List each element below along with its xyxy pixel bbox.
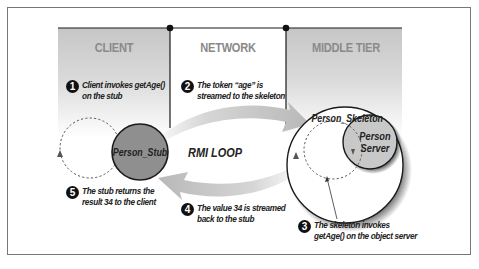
rmi-loop-diagram: CLIENT NETWORK MIDDLE TIER 1 Client invo… xyxy=(0,0,479,269)
step-2-line-2: streamed to the skeleton xyxy=(197,91,285,102)
rmi-loop-label: RMI LOOP xyxy=(186,145,245,160)
step-number-badge: 3 xyxy=(298,220,311,233)
step-4-line-2: back to the stub xyxy=(197,214,285,225)
step-number-badge: 5 xyxy=(66,186,79,199)
person-stub-label: Person_Stub xyxy=(111,146,170,158)
person-server-label: Person Server xyxy=(356,130,395,154)
step-5-line-2: result 34 to the client xyxy=(82,197,156,208)
server-label-line-2: Server xyxy=(356,142,395,154)
junction-dot-left xyxy=(167,25,174,32)
heading-network: NETWORK xyxy=(195,40,261,55)
junction-dot-right xyxy=(283,25,290,32)
step-3-line-2: getAge() on the object server xyxy=(314,231,417,242)
step-1-line-2: on the stub xyxy=(82,91,165,102)
server-label-line-1: Person xyxy=(356,130,395,142)
person-skeleton-label: Person_Skeleton xyxy=(311,112,378,124)
step-number-badge: 2 xyxy=(181,80,194,93)
heading-middle-tier: MIDDLE TIER xyxy=(305,40,387,55)
step-number-badge: 1 xyxy=(66,80,79,93)
step-number-badge: 4 xyxy=(181,203,194,216)
heading-client: CLIENT xyxy=(81,40,147,55)
